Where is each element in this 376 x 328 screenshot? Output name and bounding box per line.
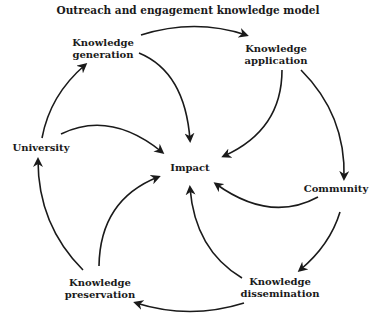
edge-generation-application	[141, 27, 246, 36]
edge-community-impact	[216, 184, 318, 207]
node-label-line2: generation	[72, 49, 134, 61]
edge-university-impact	[61, 125, 162, 152]
node-knowledge-generation: Knowledge generation	[72, 37, 134, 61]
node-community: Community	[304, 183, 369, 195]
edge-application-impact	[224, 70, 282, 156]
edge-generation-impact	[139, 53, 190, 140]
node-label-line1: Knowledge	[245, 43, 308, 55]
node-impact: Impact	[170, 162, 209, 174]
edge-dissemination-impact	[190, 188, 242, 278]
node-label-line2: dissemination	[241, 288, 320, 300]
node-knowledge-preservation: Knowledge preservation	[65, 277, 136, 301]
node-university: University	[12, 142, 69, 154]
node-knowledge-application: Knowledge application	[245, 43, 308, 67]
node-knowledge-dissemination: Knowledge dissemination	[241, 276, 320, 300]
edge-community-dissemination	[300, 212, 340, 270]
edge-dissemination-preservation	[136, 303, 244, 312]
node-label-line1: Knowledge	[72, 37, 134, 49]
node-label-line1: Knowledge	[241, 276, 320, 288]
node-label-line2: application	[245, 55, 308, 67]
edge-application-community	[301, 70, 344, 178]
node-label-line2: preservation	[65, 289, 136, 301]
edge-preservation-impact	[99, 177, 158, 266]
edge-preservation-university	[38, 160, 83, 270]
node-label-line1: Knowledge	[65, 277, 136, 289]
